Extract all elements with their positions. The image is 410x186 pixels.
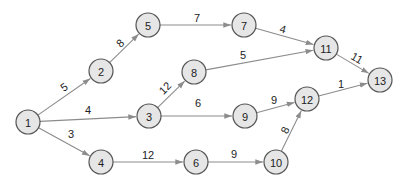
node-12: 12 xyxy=(295,87,319,111)
edge-8-to-11 xyxy=(206,50,313,70)
node-label: 2 xyxy=(98,66,104,78)
node-13: 13 xyxy=(368,68,392,92)
node-1: 1 xyxy=(16,110,40,134)
node-label: 5 xyxy=(145,20,151,32)
node-4: 4 xyxy=(89,150,113,174)
node-7: 7 xyxy=(232,13,256,37)
node-label: 3 xyxy=(146,111,152,123)
edge-weight-label: 9 xyxy=(271,94,277,106)
edge-weight-label: 5 xyxy=(240,49,246,61)
nodes-layer: 12345678910111213 xyxy=(16,13,392,174)
network-diagram: 543812612794598111 12345678910111213 xyxy=(0,0,410,186)
edge-weight-label: 5 xyxy=(58,80,70,93)
node-2: 2 xyxy=(89,59,113,83)
edge-weight-label: 7 xyxy=(194,12,200,24)
node-label: 7 xyxy=(241,20,247,32)
edge-weight-label: 4 xyxy=(278,22,287,35)
node-label: 11 xyxy=(320,43,331,55)
node-9: 9 xyxy=(233,104,257,128)
edge-weight-label: 12 xyxy=(142,149,154,161)
edge-weight-label: 1 xyxy=(338,78,344,90)
node-label: 8 xyxy=(191,67,197,79)
node-label: 1 xyxy=(25,117,31,129)
edge-weight-label: 6 xyxy=(195,97,201,109)
edge-2-to-5 xyxy=(110,34,139,63)
node-label: 10 xyxy=(270,157,282,169)
node-10: 10 xyxy=(264,150,288,174)
node-6: 6 xyxy=(184,150,208,174)
node-5: 5 xyxy=(136,13,160,37)
node-label: 12 xyxy=(301,94,313,106)
edge-weight-label: 4 xyxy=(85,104,91,116)
node-3: 3 xyxy=(137,104,161,128)
node-8: 8 xyxy=(182,60,206,84)
node-label: 6 xyxy=(193,157,199,169)
edge-labels-layer: 543812612794598111 xyxy=(58,12,365,161)
edge-weight-label: 3 xyxy=(68,128,74,140)
edge-weight-label: 8 xyxy=(278,125,291,136)
node-label: 4 xyxy=(98,157,104,169)
edge-1-to-4 xyxy=(39,128,90,156)
node-label: 9 xyxy=(242,111,248,123)
edge-weight-label: 9 xyxy=(231,148,237,160)
edge-1-to-3 xyxy=(40,117,136,122)
node-11: 11 xyxy=(314,36,338,60)
node-label: 13 xyxy=(374,75,386,87)
